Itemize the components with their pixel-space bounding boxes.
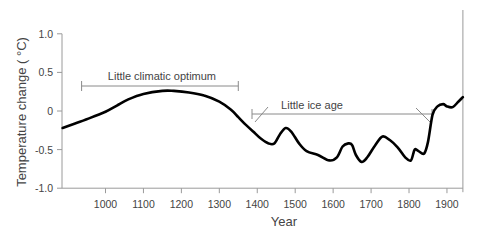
y-tick-label: 0 <box>47 105 53 117</box>
y-tick-label: -1.0 <box>35 182 53 194</box>
x-tick-label: 1800 <box>397 198 421 210</box>
y-tick-label: -0.5 <box>35 144 53 156</box>
annotation-little-climatic-optimum: Little climatic optimum <box>108 70 216 82</box>
x-tick-label: 1700 <box>359 198 383 210</box>
x-axis: 1000110012001300140015001600170018001900 <box>62 10 463 210</box>
x-tick-label: 1100 <box>132 198 155 210</box>
y-tick-label: 0.5 <box>38 66 53 78</box>
y-axis: 1.00.50-0.5-1.0 <box>35 28 62 194</box>
x-tick-label: 1500 <box>284 198 308 210</box>
temperature-line <box>63 91 463 162</box>
x-tick-label: 1400 <box>246 198 270 210</box>
annotation-little-ice-age: Little ice age <box>281 99 343 111</box>
x-tick-label: 1600 <box>321 198 345 210</box>
x-axis-title: Year <box>271 214 298 229</box>
y-axis-title: Temperature change ( °C) <box>14 37 29 187</box>
y-tick-label: 1.0 <box>38 28 53 40</box>
x-tick-label: 1000 <box>94 198 118 210</box>
x-tick-label: 1200 <box>170 198 194 210</box>
x-tick-label: 1900 <box>435 198 459 210</box>
x-tick-label: 1300 <box>208 198 232 210</box>
temperature-chart: 1.00.50-0.5-1.0 100011001200130014001500… <box>0 0 484 237</box>
